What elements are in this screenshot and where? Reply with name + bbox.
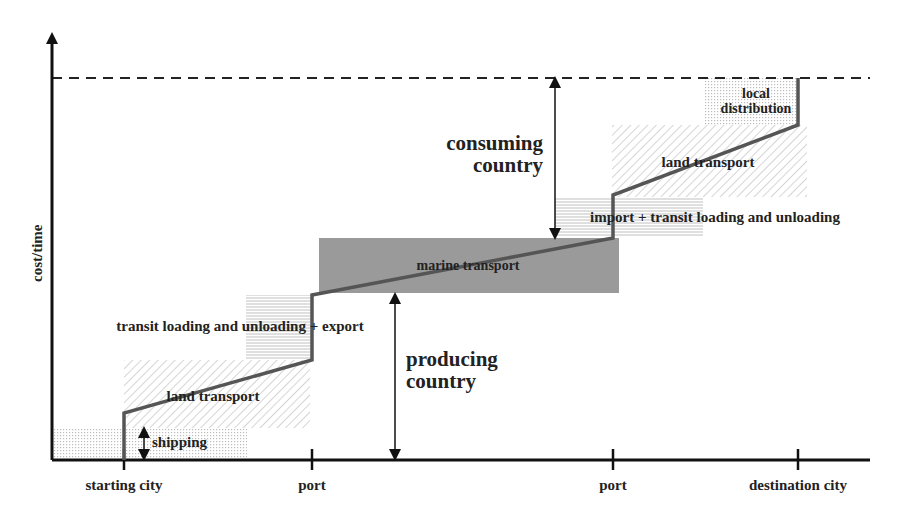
x-tick-label-destination-city: destination city [749, 477, 847, 493]
x-tick-label-port-1: port [298, 477, 326, 493]
x-tick-label-starting-city: starting city [85, 477, 163, 493]
local-distribution-label-line2: distribution [721, 101, 792, 116]
consuming-country-label-line1: consuming [446, 131, 543, 155]
producing-country-label-line2: country [406, 369, 476, 393]
shipping-label: shipping [152, 434, 208, 450]
transit-export-label: transit loading and unloading + export [116, 318, 363, 334]
marine-transport-label: marine transport [416, 258, 519, 273]
y-axis-label: cost/time [29, 224, 45, 282]
land-transport-label-2: land transport [662, 154, 755, 170]
producing-country-label-line1: producing [406, 347, 498, 371]
local-distribution-label-line1: local [742, 86, 770, 101]
land-transport-label-1: land transport [167, 388, 260, 404]
consuming-country-label-line2: country [473, 153, 543, 177]
import-transit-label: import + transit loading and unloading [590, 209, 840, 225]
cost-time-diagram: cost/time starting city port port destin… [0, 0, 898, 521]
y-axis-arrow-icon [46, 32, 58, 44]
shipping-region [52, 428, 247, 460]
x-tick-label-port-2: port [599, 477, 627, 493]
